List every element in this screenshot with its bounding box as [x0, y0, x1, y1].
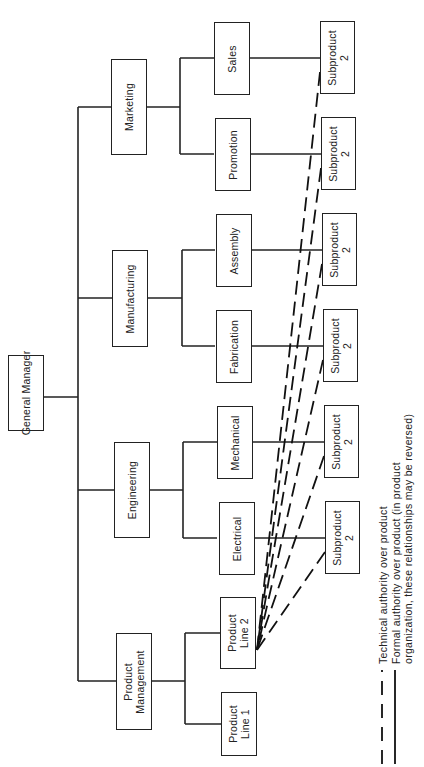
- mechanical-label: Mechanical: [229, 415, 241, 470]
- general-manager-label: General Manager: [20, 351, 32, 436]
- manufacturing-box: Manufacturing: [112, 250, 148, 347]
- legend-dashed-label: Technical authority over product: [377, 506, 389, 664]
- promotion-box: Promotion: [215, 118, 251, 191]
- marketing-box: Marketing: [111, 59, 147, 155]
- general-manager-box: General Manager: [8, 355, 44, 431]
- subproduct-sales-box: Subproduct 2: [320, 21, 355, 94]
- engineering-box: Engineering: [114, 442, 150, 538]
- mechanical-box: Mechanical: [217, 406, 253, 479]
- subproduct-label: Subproduct 2: [327, 126, 351, 182]
- subproduct-mechanical-box: Subproduct 2: [324, 405, 359, 478]
- subproduct-label: Subproduct 2: [329, 318, 353, 374]
- org-chart-lines: [0, 0, 424, 767]
- subproduct-label: Subproduct 2: [330, 414, 354, 470]
- subproduct-label: Subproduct 2: [326, 30, 350, 86]
- manufacturing-label: Manufacturing: [124, 264, 136, 333]
- fabrication-box: Fabrication: [216, 310, 252, 383]
- subproduct-assembly-box: Subproduct 2: [322, 213, 357, 286]
- subproduct-label: Subproduct 2: [331, 510, 355, 566]
- subproduct-fabrication-box: Subproduct 2: [323, 309, 358, 382]
- engineering-label: Engineering: [126, 461, 138, 519]
- legend-solid-label-1: Formal authority over product (in produc…: [390, 462, 402, 664]
- electrical-box: Electrical: [219, 502, 255, 575]
- assembly-box: Assembly: [216, 214, 252, 287]
- product-management-box: Product Management: [116, 633, 152, 730]
- sales-label: Sales: [226, 45, 238, 72]
- product-line-2-label: Product Line 2: [226, 614, 250, 652]
- subproduct-electrical-box: Subproduct 2: [325, 501, 360, 574]
- subproduct-promotion-box: Subproduct 2: [321, 117, 356, 190]
- dashed-links: [257, 72, 325, 650]
- product-line-1-label: Product Line 1: [227, 705, 251, 743]
- subproduct-label: Subproduct 2: [328, 222, 352, 278]
- product-line-1-box: Product Line 1: [221, 692, 257, 756]
- promotion-label: Promotion: [227, 130, 239, 180]
- sales-box: Sales: [214, 22, 250, 95]
- marketing-label: Marketing: [123, 83, 135, 131]
- electrical-label: Electrical: [231, 516, 243, 561]
- product-management-label: Product Management: [122, 650, 146, 713]
- legend-solid-label-2: organization, these relationships may be…: [402, 414, 414, 664]
- product-line-2-box: Product Line 2: [220, 597, 256, 669]
- fabrication-label: Fabrication: [228, 319, 240, 373]
- assembly-label: Assembly: [228, 227, 240, 274]
